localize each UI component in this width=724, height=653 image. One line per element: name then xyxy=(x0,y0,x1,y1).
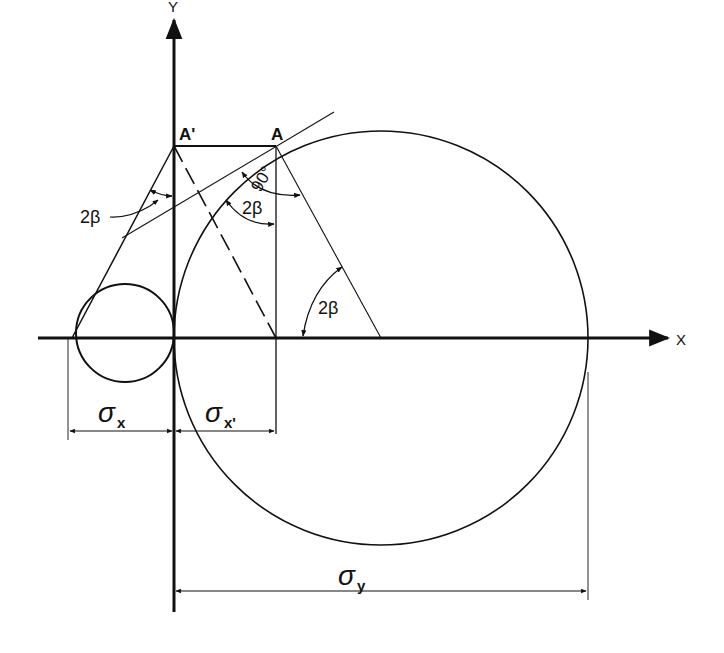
tangent-left-line xyxy=(72,146,174,338)
sigma-y-label: σy xyxy=(338,560,366,594)
y-axis-label: Y xyxy=(168,0,178,15)
x-axis-label: X xyxy=(676,331,686,348)
point-a-prime-label: A' xyxy=(179,125,195,144)
lower-angle-label: 2β xyxy=(318,298,338,318)
sigma-x-label: σx xyxy=(98,397,126,431)
small-mohr-circle xyxy=(76,284,174,382)
right-angle-label: 90° xyxy=(247,163,276,195)
tangent-line-through-a xyxy=(122,112,334,238)
point-a-label: A xyxy=(271,125,283,144)
mid-angle-label: 2β xyxy=(242,198,262,218)
left-angle-arc xyxy=(150,190,172,196)
sigma-x-prime-label: σx' xyxy=(205,397,236,431)
left-angle-leader xyxy=(110,200,158,217)
left-angle-label: 2β xyxy=(80,207,100,227)
mohr-circle-diagram: X Y A' A 2β 90° 2β 2β σx σx' σy xyxy=(0,0,724,653)
